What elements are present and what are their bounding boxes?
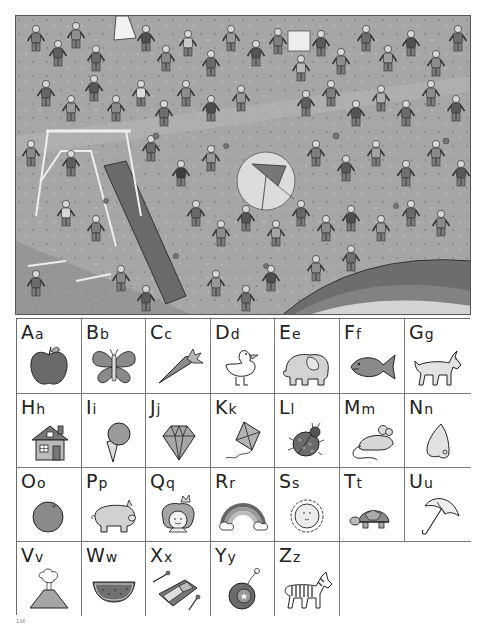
queen-icon [149,492,207,538]
ice-cream-icon [85,418,143,464]
letter-lower: e [292,326,301,342]
alphabet-cell-l: Ll [275,394,340,468]
watermelon-icon [85,566,143,612]
alphabet-cell-p: Pp [82,468,146,542]
crowd-scene-graphic [16,16,471,315]
letter-lower: s [292,475,299,491]
nose-icon [409,418,467,464]
alphabet-cell-i: Ii [82,394,146,468]
orange-icon [20,492,78,538]
letter-upper: Y [215,544,227,566]
letter-upper: X [150,544,163,566]
alphabet-cell-e: Ee [275,319,340,394]
letter-upper: D [215,321,230,343]
letter-upper: H [21,396,35,418]
pig-icon [85,492,143,538]
alphabet-cell-d: Dd [211,319,275,394]
letter-lower: l [291,401,295,417]
letter-lower: z [293,549,300,565]
letter-lower: v [35,549,43,565]
alphabet-grid: Aa Bb Cc Dd Ee [16,318,470,615]
letter-lower: g [425,326,434,342]
letter-upper: U [409,470,423,492]
letter-lower: n [424,401,433,417]
carrot-icon [149,343,207,389]
letter-lower: q [166,475,175,491]
alphabet-cell-c: Cc [146,319,211,394]
letter-lower: h [36,401,45,417]
playground-illustration [15,15,471,315]
alphabet-cell-r: Rr [211,468,275,542]
letter-lower: p [98,475,107,491]
sun-icon [278,492,336,538]
letter-upper: S [279,470,291,492]
letter-upper: L [279,396,290,418]
letter-upper: M [344,396,360,418]
letter-lower: d [231,326,240,342]
alphabet-cell-y: Yy [211,542,275,616]
alphabet-cell-m: Mm [340,394,405,468]
letter-upper: B [86,321,99,343]
letter-lower: y [228,549,236,565]
mouse-icon [343,418,401,464]
letter-upper: F [344,321,355,343]
alphabet-cell-v: Vv [17,542,82,616]
letter-lower: w [106,549,117,565]
alphabet-cell-j: Jj [146,394,211,468]
umbrella-icon [409,492,467,538]
elephant-icon [278,343,336,389]
kite-icon [214,418,272,464]
letter-upper: Z [279,544,292,566]
letter-upper: A [21,321,34,343]
letter-lower: o [37,475,46,491]
alphabet-cell-z: Zz [275,542,340,616]
letter-lower: r [229,475,235,491]
zebra-icon [278,566,336,612]
letter-lower: u [424,475,433,491]
letter-lower: t [357,475,363,491]
ladybug-icon [278,418,336,464]
alphabet-cell-x: Xx [146,542,211,616]
alphabet-cell-h: Hh [17,394,82,468]
alphabet-cell-k: Kk [211,394,275,468]
alphabet-cell-a: Aa [17,319,82,394]
letter-upper: K [215,396,227,418]
house-icon [20,418,78,464]
letter-upper: G [409,321,424,343]
letter-upper: J [150,396,156,418]
alphabet-cell-o: Oo [17,468,82,542]
alphabet-cell-g: Gg [405,319,471,394]
apple-icon [20,343,78,389]
xylophone-icon [149,566,207,612]
alphabet-cell-u: Uu [405,468,471,542]
letter-upper: N [409,396,423,418]
goat-icon [409,343,467,389]
letter-upper: O [21,470,36,492]
letter-lower: k [228,401,236,417]
letter-lower: j [157,401,161,417]
letter-lower: x [164,549,172,565]
letter-upper: P [86,470,97,492]
letter-upper: R [215,470,228,492]
jewel-icon [149,418,207,464]
letter-lower: i [93,401,97,417]
yo-yo-icon [214,566,272,612]
alphabet-cell-b: Bb [82,319,146,394]
volcano-icon [20,566,78,612]
letter-upper: E [279,321,291,343]
alphabet-cell-s: Ss [275,468,340,542]
empty-cell [340,542,471,616]
kite-highlight-circle [237,152,295,210]
butterfly-icon [85,343,143,389]
letter-lower: m [361,401,375,417]
letter-upper: C [150,321,163,343]
alphabet-cell-q: Qq [146,468,211,542]
alphabet-cell-n: Nn [405,394,471,468]
alphabet-cell-f: Ff [340,319,405,394]
letter-upper: V [21,544,34,566]
letter-upper: I [86,396,92,418]
fish-icon [343,343,401,389]
alphabet-cell-t: Tt [340,468,405,542]
turtle-icon [343,492,401,538]
letter-upper: W [86,544,105,566]
